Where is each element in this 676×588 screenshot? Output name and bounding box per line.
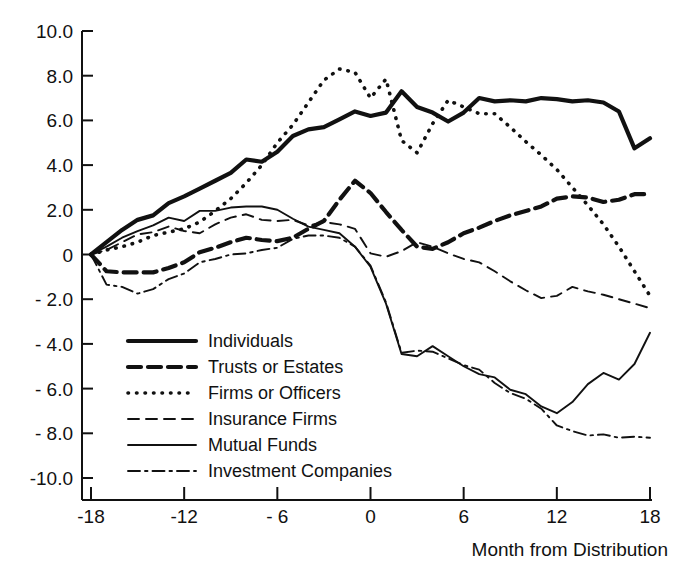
x-axis: -18-12- 6061218 xyxy=(77,487,660,527)
x-tick-label: - 6 xyxy=(266,506,288,527)
chart-figure: 10.08.06.04.02.00- 2.0- 4.0- 6.0- 8.0-10… xyxy=(0,0,676,588)
y-tick-label: 4.0 xyxy=(47,155,73,176)
y-tick-label: - 8.0 xyxy=(35,423,73,444)
y-tick-label: 8.0 xyxy=(47,66,73,87)
legend-label-trusts-or-estates: Trusts or Estates xyxy=(208,357,343,377)
y-tick-label: 6.0 xyxy=(47,110,73,131)
legend-label-investment-companies: Investment Companies xyxy=(208,461,392,481)
x-axis-title: Month from Distribution xyxy=(472,539,668,560)
x-tick-label: 6 xyxy=(458,506,469,527)
legend-label-insurance-firms: Insurance Firms xyxy=(208,409,337,429)
x-tick-label: 0 xyxy=(365,506,376,527)
x-tick-label: -18 xyxy=(77,506,104,527)
legend-label-individuals: Individuals xyxy=(208,331,293,351)
legend-label-mutual-funds: Mutual Funds xyxy=(208,435,317,455)
y-tick-label: -10.0 xyxy=(30,468,73,489)
chart-legend: IndividualsTrusts or EstatesFirms or Off… xyxy=(128,331,392,481)
series-line-insurance-firms: Insurance Firms xyxy=(91,214,650,308)
x-tick-label: 12 xyxy=(546,506,567,527)
x-tick-label: 18 xyxy=(639,506,660,527)
legend-label-firms-or-officers: Firms or Officers xyxy=(208,383,341,403)
y-tick-label: 0 xyxy=(62,245,73,266)
series-line-individuals: Individuals xyxy=(91,91,650,254)
series-line-mutual-funds: Mutual Funds xyxy=(91,206,650,413)
series-lines: IndividualsTrusts or EstatesFirms or Off… xyxy=(91,69,650,438)
y-tick-label: - 4.0 xyxy=(35,334,73,355)
y-tick-label: - 6.0 xyxy=(35,379,73,400)
series-line-trusts-or-estates: Trusts or Estates xyxy=(91,181,650,273)
series-line-firms-or-officers: Firms or Officers xyxy=(91,69,650,296)
y-axis: 10.08.06.04.02.00- 2.0- 4.0- 6.0- 8.0-10… xyxy=(30,21,93,500)
x-tick-label: -12 xyxy=(170,506,197,527)
line-chart: 10.08.06.04.02.00- 2.0- 4.0- 6.0- 8.0-10… xyxy=(0,0,676,588)
y-tick-label: 10.0 xyxy=(36,21,73,42)
y-tick-label: - 2.0 xyxy=(35,289,73,310)
y-tick-label: 2.0 xyxy=(47,200,73,221)
